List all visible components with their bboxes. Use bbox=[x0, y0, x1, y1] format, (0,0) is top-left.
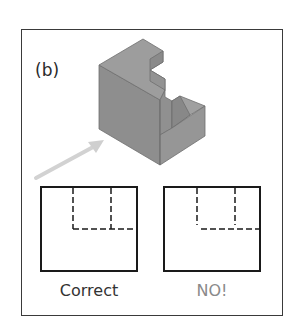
view-wrong bbox=[164, 187, 260, 271]
caption-correct: Correct bbox=[41, 283, 137, 299]
caption-wrong: NO! bbox=[164, 283, 260, 299]
view-arrow-icon bbox=[36, 140, 104, 178]
view-correct bbox=[41, 187, 137, 271]
figure-artwork bbox=[0, 0, 296, 329]
stepped-block-icon bbox=[99, 39, 205, 165]
